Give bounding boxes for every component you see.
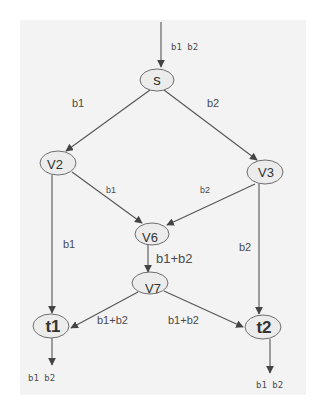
node-t1: t1 [33, 314, 69, 338]
edge-label-v2-v6: b1 [106, 185, 116, 195]
node-v6: V6 [135, 223, 169, 245]
edge-label-input: b1 b2 [171, 42, 198, 52]
edge-label-v2-t1: b1 [63, 238, 75, 250]
node-t2: t2 [245, 315, 281, 339]
node-s: s [140, 69, 174, 91]
edge-label-v7-t2: b1+b2 [168, 314, 199, 326]
edge-label-v3-v6: b2 [200, 185, 210, 195]
edge-label-t2-output: b1 b2 [256, 380, 283, 390]
network-flow-diagram: b1 b2 b1 b2 b1 b2 b1 b2 b1+b2 b1+b2 b1+b… [0, 0, 323, 409]
node-v2: V2 [40, 151, 76, 175]
node-v3: V3 [247, 160, 283, 184]
edge-label-s-v2: b1 [72, 97, 84, 109]
edge-label-v7-t1: b1+b2 [97, 314, 128, 326]
edge-label-s-v3: b2 [207, 97, 219, 109]
node-t2-label: t2 [256, 318, 271, 337]
node-v2-label: V2 [47, 157, 63, 172]
node-v7-label: V7 [145, 281, 161, 296]
node-v6-label: V6 [142, 230, 158, 245]
node-s-label: s [153, 71, 161, 88]
edge-label-v3-t2: b2 [239, 241, 251, 253]
edge-label-t1-output: b1 b2 [28, 373, 55, 383]
node-v3-label: V3 [258, 165, 274, 180]
edge-label-v6-v7: b1+b2 [156, 251, 193, 266]
node-t1-label: t1 [45, 317, 60, 336]
